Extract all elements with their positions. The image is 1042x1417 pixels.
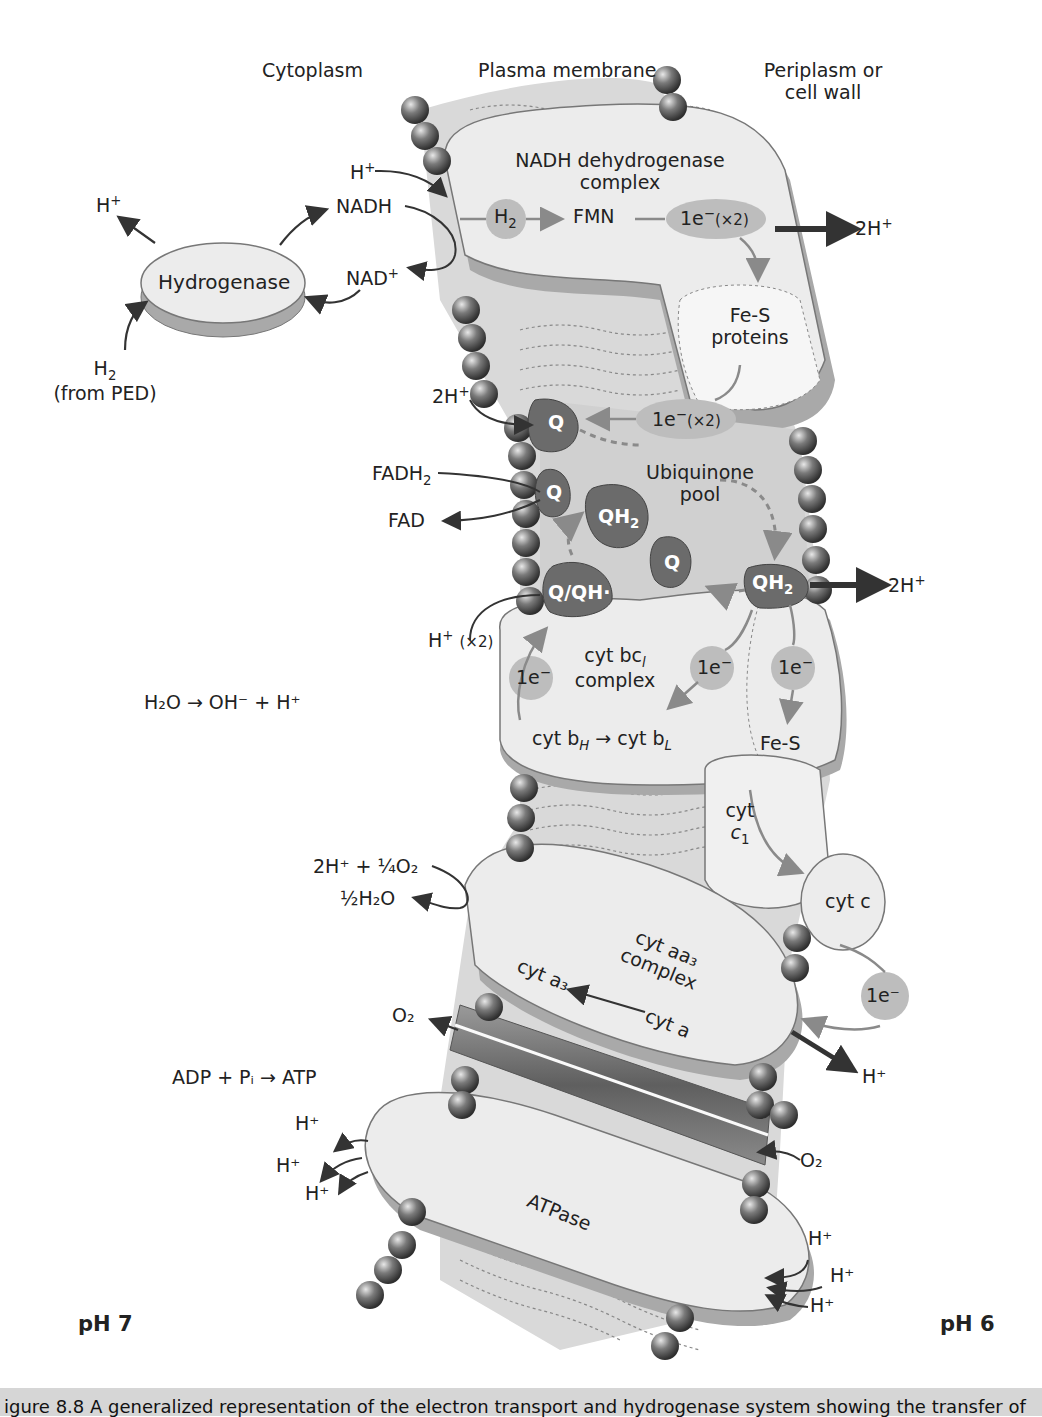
cyt-c1-label: cyt c1: [715, 800, 765, 847]
oxidase-electron-node: 1e⁻: [866, 985, 900, 1007]
region-label-plasma-membrane: Plasma membrane: [478, 60, 656, 82]
qh2-left-label: QH2: [598, 506, 639, 531]
cyt-c1-line2: c1: [715, 822, 765, 847]
q-mid-label: Q: [546, 482, 562, 504]
atpase-h-right-2: H⁺: [830, 1265, 854, 1287]
atpase-h-right-1: H⁺: [808, 1228, 832, 1250]
bc1-line1: cyt bcl: [560, 645, 670, 670]
bc1-line2: complex: [560, 670, 670, 692]
fes-proteins-label: Fe-S proteins: [700, 305, 800, 349]
bc1-electron-left: 1e−: [516, 665, 551, 689]
oxidase-reactants: 2H⁺ + ¼O₂: [313, 856, 418, 878]
ubiquinone-pool-label: Ubiquinone pool: [640, 462, 760, 506]
periplasm-line1: Periplasm or: [758, 60, 888, 82]
oxidase-product: ½H₂O: [340, 888, 395, 910]
nadh-complex-line2: complex: [490, 172, 750, 194]
ubiquinone-2h-in: 2H+: [432, 384, 470, 408]
cyt-c-label: cyt c: [825, 891, 871, 913]
hydrogenase-label: Hydrogenase: [158, 271, 290, 294]
hydrogenase-h-plus-out: H+: [96, 193, 121, 217]
fadh2-label: FADH2: [372, 463, 432, 488]
atpase-h-left-3: H⁺: [305, 1183, 329, 1205]
fes-electron-node: 1e−(×2): [652, 407, 721, 431]
cyt-b-transfer-label: cyt bH → cyt bL: [532, 728, 672, 753]
nadh-h2-node: H2: [494, 206, 517, 231]
q-qh-label: Q/QH·: [548, 582, 610, 604]
nadh-complex-line1: NADH dehydrogenase: [490, 150, 750, 172]
nadh-electron-node: 1e−(×2): [680, 206, 749, 230]
bc1-electron-mid: 1e−: [697, 655, 732, 679]
q-top-label: Q: [548, 412, 564, 434]
nadh-h-plus-in: H+: [350, 160, 375, 184]
atp-synthesis-equation: ADP + Pᵢ → ATP: [172, 1067, 317, 1089]
ubiquinone-h-in: H+ (×2): [428, 628, 493, 652]
nad-plus-label: NAD+: [346, 266, 399, 290]
oxidase-h-out: H⁺: [862, 1066, 886, 1088]
h2-source-label: (from PED): [50, 383, 160, 405]
bc1-electron-right: 1e−: [778, 655, 813, 679]
fmn-label: FMN: [573, 206, 615, 228]
nadh-complex-title: NADH dehydrogenase complex: [490, 150, 750, 194]
qh2-right-label: QH2: [752, 572, 793, 597]
bc1-complex-label: cyt bcl complex: [560, 645, 670, 692]
ph-left-label: pH 7: [78, 1312, 133, 1336]
periplasm-line2: cell wall: [758, 82, 888, 104]
oxidase-o2-out: O₂: [392, 1005, 415, 1027]
atpase-h-left-2: H⁺: [276, 1155, 300, 1177]
region-label-cytoplasm: Cytoplasm: [262, 60, 363, 82]
atpase-h-left-1: H⁺: [295, 1113, 319, 1135]
h2-label: H: [94, 357, 108, 379]
pool-line2: pool: [640, 484, 760, 506]
hydrogenase-h2-source: H2 (from PED): [50, 358, 160, 405]
region-label-periplasm: Periplasm or cell wall: [758, 60, 888, 104]
cyt-c1-line1: cyt: [715, 800, 765, 822]
ubiquinone-pump-out: 2H+: [888, 573, 926, 597]
q-center-label: Q: [664, 552, 680, 574]
fes-line1: Fe-S: [700, 305, 800, 327]
water-dissociation-equation: H₂O → OH⁻ + H⁺: [144, 692, 300, 714]
figure-caption: igure 8.8 A generalized representation o…: [0, 1388, 1042, 1416]
nadh-label: NADH: [336, 196, 392, 218]
fad-label: FAD: [388, 510, 425, 532]
fes-line2: proteins: [700, 327, 800, 349]
nadh-pump-out: 2H+: [855, 216, 893, 240]
pool-line1: Ubiquinone: [640, 462, 760, 484]
caption-text: igure 8.8 A generalized representation o…: [4, 1396, 1026, 1417]
bc1-fes-label: Fe-S: [760, 733, 801, 755]
ph-right-label: pH 6: [940, 1312, 995, 1336]
atpase-h-right-3: H⁺: [810, 1295, 834, 1317]
atpase-o2-in: O₂: [800, 1150, 823, 1172]
